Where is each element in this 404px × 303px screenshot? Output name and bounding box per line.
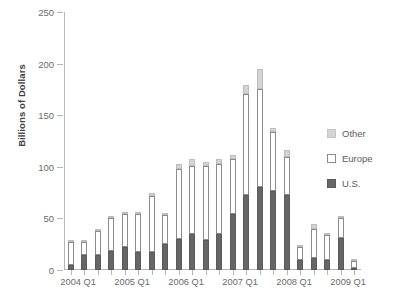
bar-segment-us — [203, 240, 209, 270]
x-axis-tick — [273, 270, 274, 275]
bar — [81, 240, 87, 270]
bar — [297, 245, 303, 270]
y-axis-line — [64, 12, 65, 270]
x-axis-tick — [260, 270, 261, 275]
bar-segment-europe — [297, 247, 303, 259]
bar-segment-us — [324, 260, 330, 270]
plot-area: 0501001502002502004 Q12005 Q12006 Q12007… — [64, 12, 361, 270]
bar — [189, 159, 195, 270]
bar-segment-us — [176, 239, 182, 270]
bar-segment-us — [135, 252, 141, 270]
bar — [270, 128, 276, 270]
x-axis-tick-label: 2005 Q1 — [114, 277, 150, 287]
bar-segment-europe — [68, 242, 74, 265]
x-axis-tick — [341, 270, 342, 275]
y-axis-tick-label: 250 — [20, 7, 54, 18]
bar-segment-europe — [81, 242, 87, 254]
bar-segment-europe — [284, 157, 290, 195]
x-axis-tick — [314, 270, 315, 275]
bar-segment-us — [351, 268, 357, 270]
bar-segment-europe — [203, 166, 209, 240]
x-axis-tick — [246, 270, 247, 275]
x-axis-tick — [354, 270, 355, 275]
bar-segment-us — [297, 260, 303, 270]
y-axis-tick — [57, 270, 63, 271]
bar-segment-us — [243, 195, 249, 270]
bar-segment-europe — [351, 261, 357, 268]
y-axis-tick — [57, 64, 63, 65]
other-swatch-icon — [327, 129, 336, 138]
x-axis-tick — [138, 270, 139, 275]
legend-item-other: Other — [327, 128, 373, 139]
bar-segment-us — [149, 252, 155, 270]
bar — [95, 229, 101, 270]
bar-segment-us — [68, 265, 74, 270]
bar — [338, 216, 344, 270]
stacked-bar-chart: Billions of Dollars 0501001502002502004 … — [0, 0, 404, 303]
bar-segment-us — [162, 244, 168, 270]
y-axis-tick — [57, 167, 63, 168]
legend-item-europe: Europe — [327, 153, 373, 164]
bar-segment-europe — [135, 214, 141, 252]
x-axis-tick — [125, 270, 126, 275]
bar — [162, 213, 168, 270]
bar-segment-us — [216, 234, 222, 270]
bar — [243, 85, 249, 270]
bar-segment-europe — [270, 132, 276, 191]
bar — [324, 233, 330, 270]
bar — [284, 150, 290, 270]
bar-segment-europe — [243, 94, 249, 195]
bar-segment-europe — [338, 218, 344, 238]
bar-segment-europe — [189, 166, 195, 234]
x-axis-tick-label: 2007 Q1 — [222, 277, 258, 287]
bar-segment-us — [81, 255, 87, 270]
x-axis-tick — [98, 270, 99, 275]
legend-label-us: U.S. — [342, 178, 360, 189]
bar — [176, 164, 182, 270]
bar-segment-us — [284, 195, 290, 270]
bar-segment-europe — [95, 231, 101, 255]
x-axis-tick — [327, 270, 328, 275]
bar-segment-europe — [108, 218, 114, 251]
bar — [351, 259, 357, 270]
y-axis-tick-label: 100 — [20, 161, 54, 172]
bar-segment-us — [189, 234, 195, 270]
x-axis-tick — [233, 270, 234, 275]
bar-segment-europe — [122, 214, 128, 247]
y-axis-tick — [57, 12, 63, 13]
bar-segment-europe — [311, 229, 317, 258]
x-axis-tick — [179, 270, 180, 275]
bar-segment-us — [257, 187, 263, 270]
bar — [230, 155, 236, 270]
bar-segment-europe — [149, 196, 155, 253]
x-axis-tick — [111, 270, 112, 275]
x-axis-tick-label: 2009 Q1 — [330, 277, 366, 287]
y-axis-tick-label: 200 — [20, 58, 54, 69]
y-axis-tick-label: 50 — [20, 213, 54, 224]
bar — [108, 216, 114, 270]
legend-label-other: Other — [342, 128, 366, 139]
x-axis-tick-label: 2006 Q1 — [168, 277, 204, 287]
y-axis-tick-label: 150 — [20, 110, 54, 121]
bar-segment-europe — [216, 164, 222, 234]
us-swatch-icon — [327, 179, 336, 188]
bar — [149, 193, 155, 270]
europe-swatch-icon — [327, 154, 336, 163]
bar-segment-us — [108, 251, 114, 270]
bar-segment-us — [338, 238, 344, 270]
x-axis-tick-label: 2008 Q1 — [276, 277, 312, 287]
y-axis-tick — [57, 115, 63, 116]
x-axis-tick — [71, 270, 72, 275]
x-axis-tick — [84, 270, 85, 275]
bar — [203, 162, 209, 270]
bar — [216, 159, 222, 270]
legend-item-us: U.S. — [327, 178, 373, 189]
y-axis-tick-label: 0 — [20, 265, 54, 276]
x-axis-tick — [165, 270, 166, 275]
bar-segment-europe — [176, 169, 182, 239]
bar-segment-us — [270, 191, 276, 270]
bar-segment-other — [189, 159, 195, 166]
bar-segment-us — [230, 214, 236, 270]
x-axis-tick — [192, 270, 193, 275]
bar-segment-europe — [230, 159, 236, 215]
